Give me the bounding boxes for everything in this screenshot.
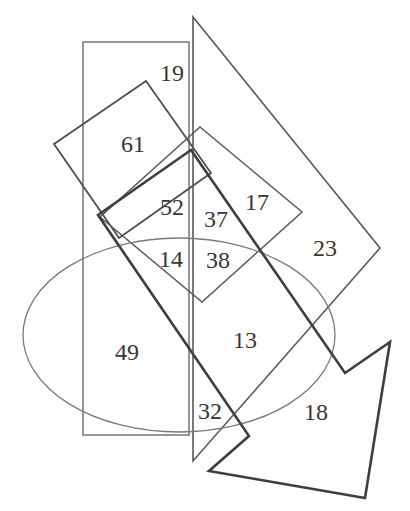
- region-count-32: 32: [198, 398, 222, 424]
- worksheet-figure: 19 61 52 37 17 23 14 38 13 49 32 18: [0, 0, 410, 511]
- region-count-37: 37: [204, 206, 228, 232]
- region-count-61: 61: [121, 131, 145, 157]
- region-count-52: 52: [160, 194, 184, 220]
- overlapping-shapes-canvas: 19 61 52 37 17 23 14 38 13 49 32 18: [0, 0, 410, 511]
- block-arrow-shape: [98, 150, 390, 498]
- region-count-49: 49: [115, 339, 139, 365]
- rotated-square-large-shape: [54, 81, 211, 238]
- region-count-17: 17: [245, 189, 269, 215]
- region-count-13: 13: [233, 327, 257, 353]
- region-count-14: 14: [159, 246, 183, 272]
- region-count-19: 19: [160, 60, 184, 86]
- region-count-23: 23: [313, 235, 337, 261]
- region-count-38: 38: [206, 247, 230, 273]
- region-count-18: 18: [304, 399, 328, 425]
